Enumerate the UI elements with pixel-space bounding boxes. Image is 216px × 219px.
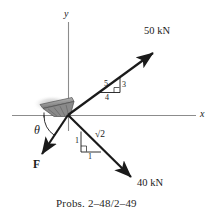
force-50kn-arrow (68, 53, 153, 115)
figure-canvas (0, 0, 216, 219)
slope-sqrt2-horizontal-label: 1 (88, 153, 92, 161)
y-axis-label: y (64, 9, 68, 19)
slope-sqrt2-vertical-label: 1 (75, 137, 79, 145)
force-50kn-label: 50 kN (144, 26, 170, 37)
slope-345-vertical-label: 3 (122, 81, 126, 89)
mechanics-figure: y x 50 kN 40 kN F θ 5 3 4 1 1 √2 Probs. … (0, 0, 216, 219)
slope-345-hypotenuse-label: 5 (104, 80, 108, 88)
theta-angle-arc (44, 116, 55, 136)
figure-caption: Probs. 2–48/2–49 (56, 198, 137, 209)
force-40kn-label: 40 kN (137, 178, 163, 189)
force-f-label: F (33, 159, 40, 171)
force-f-arrow (42, 115, 68, 154)
slope-sqrt2-hypotenuse-label: √2 (95, 130, 105, 140)
slope-345-horizontal-label: 4 (105, 94, 109, 102)
force-40kn-arrow (68, 115, 131, 177)
theta-angle-label: θ (34, 124, 40, 136)
x-axis-label: x (200, 109, 204, 119)
